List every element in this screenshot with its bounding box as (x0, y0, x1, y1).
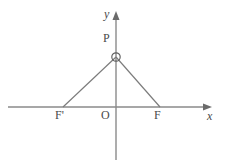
segment-pf-prime (63, 57, 116, 107)
label-x-axis: x (207, 110, 212, 122)
label-y-axis: y (104, 8, 109, 20)
label-origin-o: O (101, 109, 110, 121)
y-axis-arrowhead-icon (113, 11, 120, 20)
label-point-p: P (103, 32, 110, 44)
segment-pf (116, 57, 160, 107)
figure-canvas (0, 0, 226, 167)
label-point-f: F (154, 109, 161, 121)
label-point-f-prime: F' (55, 109, 64, 121)
geometry-figure: P F' O F y x (0, 0, 226, 167)
